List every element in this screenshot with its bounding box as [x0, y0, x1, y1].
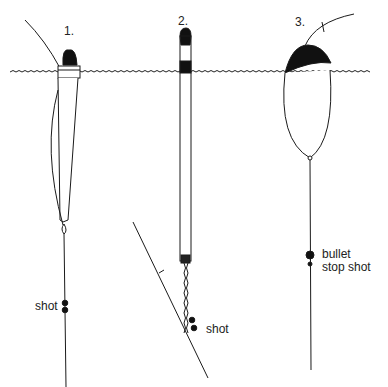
float-2-number: 2. — [178, 15, 188, 28]
float-2 — [133, 28, 208, 378]
float-rigs-diagram — [0, 0, 388, 387]
float-3-number: 3. — [295, 16, 305, 29]
float-1-number: 1. — [64, 25, 74, 38]
float-1-shot-label: shot — [35, 300, 58, 313]
float-3 — [284, 14, 354, 370]
float-1 — [25, 20, 80, 387]
float-3-stop-shot-label: stop shot — [322, 261, 371, 274]
float-2-shot-label: shot — [206, 323, 229, 336]
